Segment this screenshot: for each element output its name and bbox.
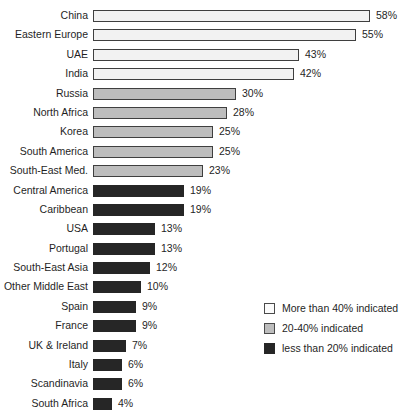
bar-wrapper bbox=[93, 88, 236, 100]
bar-value-label: 23% bbox=[209, 164, 230, 176]
bar-low bbox=[93, 204, 184, 216]
bar-value-label: 25% bbox=[219, 125, 240, 137]
bar-wrapper bbox=[93, 126, 213, 138]
legend-item-low: less than 20% indicated bbox=[264, 339, 412, 357]
bar-row: Scandinavia6% bbox=[0, 376, 415, 395]
bar-category-label: USA bbox=[0, 222, 88, 234]
bar-value-label: 10% bbox=[147, 280, 168, 292]
bar-row: South-East Med.23% bbox=[0, 163, 415, 182]
cropped-title-remnant bbox=[8, 0, 308, 3]
bar-category-label: South-East Med. bbox=[0, 164, 88, 176]
legend-swatch-icon bbox=[264, 303, 275, 314]
bar-mid bbox=[93, 165, 203, 177]
bar-value-label: 13% bbox=[161, 242, 182, 254]
bar-value-label: 13% bbox=[161, 222, 182, 234]
bar-low bbox=[93, 320, 136, 332]
bar-high bbox=[93, 29, 356, 41]
bar-row: Italy6% bbox=[0, 357, 415, 376]
bar-category-label: Italy bbox=[0, 358, 88, 370]
bar-category-label: Russia bbox=[0, 87, 88, 99]
bar-low bbox=[93, 359, 122, 371]
chart-legend: More than 40% indicated20-40% indicatedl… bbox=[264, 299, 412, 359]
bar-category-label: India bbox=[0, 67, 88, 79]
bar-wrapper bbox=[93, 204, 184, 216]
bar-row: South-East Asia12% bbox=[0, 260, 415, 279]
bar-row: Korea25% bbox=[0, 124, 415, 143]
bar-value-label: 42% bbox=[300, 67, 321, 79]
bar-category-label: China bbox=[0, 9, 88, 21]
bar-mid bbox=[93, 146, 213, 158]
bar-value-label: 7% bbox=[132, 339, 147, 351]
bar-category-label: Scandinavia bbox=[0, 377, 88, 389]
bar-low bbox=[93, 243, 155, 255]
bar-category-label: France bbox=[0, 319, 88, 331]
bar-row: USA13% bbox=[0, 221, 415, 240]
bar-category-label: South Africa bbox=[0, 397, 88, 409]
bar-value-label: 43% bbox=[305, 48, 326, 60]
bar-category-label: Eastern Europe bbox=[0, 28, 88, 40]
bar-wrapper bbox=[93, 107, 227, 119]
bar-mid bbox=[93, 126, 213, 138]
bar-row: India42% bbox=[0, 66, 415, 85]
bar-value-label: 6% bbox=[128, 358, 143, 370]
bar-row: Portugal13% bbox=[0, 241, 415, 260]
bar-row: Russia30% bbox=[0, 86, 415, 105]
legend-item-mid: 20-40% indicated bbox=[264, 319, 412, 337]
bar-category-label: North Africa bbox=[0, 106, 88, 118]
bar-low bbox=[93, 398, 112, 410]
bar-low bbox=[93, 301, 136, 313]
bar-row: North Africa28% bbox=[0, 105, 415, 124]
legend-item-high: More than 40% indicated bbox=[264, 299, 412, 317]
bar-value-label: 28% bbox=[233, 106, 254, 118]
bar-category-label: South-East Asia bbox=[0, 261, 88, 273]
bar-value-label: 25% bbox=[219, 145, 240, 157]
bar-row: South Africa4% bbox=[0, 396, 415, 414]
bar-wrapper bbox=[93, 398, 112, 410]
bar-wrapper bbox=[93, 243, 155, 255]
bar-row: Caribbean19% bbox=[0, 202, 415, 221]
bar-high bbox=[93, 10, 370, 22]
bar-row: South America25% bbox=[0, 144, 415, 163]
bar-wrapper bbox=[93, 165, 203, 177]
legend-swatch-icon bbox=[264, 323, 275, 334]
bar-low bbox=[93, 185, 184, 197]
bar-wrapper bbox=[93, 185, 184, 197]
bar-value-label: 4% bbox=[118, 397, 133, 409]
bar-wrapper bbox=[93, 262, 150, 274]
bar-row: UAE43% bbox=[0, 47, 415, 66]
bar-low bbox=[93, 340, 126, 352]
bar-value-label: 30% bbox=[242, 87, 263, 99]
bar-wrapper bbox=[93, 378, 122, 390]
bar-category-label: Central America bbox=[0, 184, 88, 196]
legend-swatch-icon bbox=[264, 343, 275, 354]
bar-value-label: 9% bbox=[142, 319, 157, 331]
bar-mid bbox=[93, 107, 227, 119]
bar-category-label: South America bbox=[0, 145, 88, 157]
bar-wrapper bbox=[93, 340, 126, 352]
bar-wrapper bbox=[93, 68, 294, 80]
bar-category-label: UK & Ireland bbox=[0, 339, 88, 351]
bar-low bbox=[93, 281, 141, 293]
bar-row: Central America19% bbox=[0, 183, 415, 202]
bar-wrapper bbox=[93, 29, 356, 41]
bar-value-label: 6% bbox=[128, 377, 143, 389]
bar-category-label: Portugal bbox=[0, 242, 88, 254]
bar-wrapper bbox=[93, 49, 299, 61]
legend-label: More than 40% indicated bbox=[282, 302, 398, 314]
bar-wrapper bbox=[93, 223, 155, 235]
bar-mid bbox=[93, 88, 236, 100]
bar-low bbox=[93, 262, 150, 274]
legend-label: 20-40% indicated bbox=[282, 322, 363, 334]
bar-wrapper bbox=[93, 10, 370, 22]
bar-high bbox=[93, 68, 294, 80]
legend-label: less than 20% indicated bbox=[282, 342, 393, 354]
bar-category-label: Korea bbox=[0, 125, 88, 137]
bar-value-label: 19% bbox=[190, 203, 211, 215]
bar-value-label: 55% bbox=[362, 28, 383, 40]
bar-category-label: UAE bbox=[0, 48, 88, 60]
bar-category-label: Other Middle East bbox=[0, 280, 88, 292]
bar-low bbox=[93, 378, 122, 390]
bar-category-label: Caribbean bbox=[0, 203, 88, 215]
bar-wrapper bbox=[93, 146, 213, 158]
